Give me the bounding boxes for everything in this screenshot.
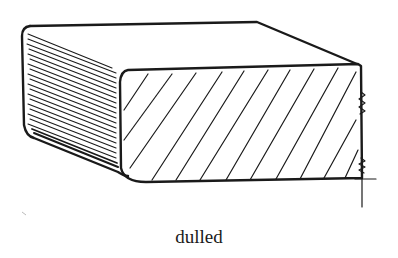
front-face-hatching — [124, 68, 358, 180]
front-face-outline — [120, 64, 362, 182]
top-face-outline — [30, 22, 357, 64]
end-grain-shading — [27, 34, 118, 167]
dulled-edge-illustration — [0, 0, 398, 258]
figure-caption: dulled — [0, 226, 398, 248]
stray-mark — [22, 212, 26, 215]
